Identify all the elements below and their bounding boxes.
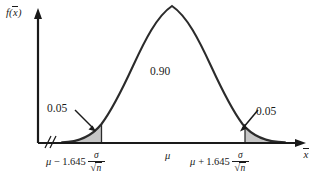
radicand-right: n [239,162,246,174]
right-tail-shaded-area [62,6,285,143]
radical-sign-left: √ [90,162,96,174]
left-tail-shaded-area [62,6,285,143]
radical-sign-right: √ [234,162,240,174]
x-axis-label: x [303,148,309,161]
y-axis-arrowhead [34,8,42,19]
plus-operator: + [195,156,206,167]
z-value-right: 1.645 [206,156,230,167]
left-tail-area-label: 0.05 [47,103,67,115]
sigma-symbol-left: σ [92,151,101,161]
radicand-left: n [95,162,102,174]
x-tick-label-left: μ − 1.645 σ √ n [46,150,105,172]
center-area-label: 0.90 [150,66,170,78]
y-axis-label: f(x) [6,6,22,19]
x-tick-label-right: μ + 1.645 σ √ n [190,150,249,172]
sigma-symbol-right: σ [236,151,245,161]
normal-curve [62,6,285,142]
left-tail-leader-arrow [75,110,96,132]
normal-distribution-figure: f(x) 0.05 0.90 0.05 μ − 1.645 σ √ n μ [0,0,321,182]
sigma-over-sqrt-n-left: σ √ n [88,151,105,173]
sqrt-n-right: √ n [232,162,248,174]
z-value-left: 1.645 [62,156,86,167]
minus-operator: − [51,156,62,167]
sqrt-n-left: √ n [88,162,104,174]
x-tick-label-center: μ [165,150,170,161]
right-tail-area-label: 0.05 [256,106,276,118]
x-axis-arrowhead [295,139,306,147]
sigma-over-sqrt-n-right: σ √ n [232,151,249,173]
